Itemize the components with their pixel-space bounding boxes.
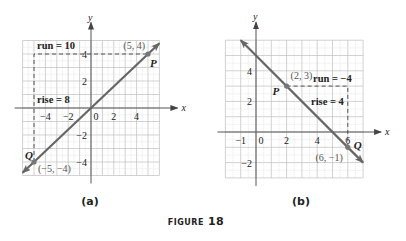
x-tick-label: 2 [284, 135, 289, 146]
figure-caption-number: 18 [208, 215, 224, 228]
y-tick-label: 4 [82, 49, 87, 60]
figure-canvas: xy−4−202442−2−4run = 10rise = 8(5, 4)PQ(… [0, 0, 406, 241]
point-P-name: P [150, 57, 157, 69]
x-tick-label: 4 [134, 111, 139, 122]
y-axis-label: y [87, 12, 93, 23]
x-axis-label: x [180, 102, 186, 113]
point-Q-name: Q [354, 139, 362, 151]
point-P-name: P [273, 85, 280, 97]
point-P [145, 51, 150, 56]
y-axis-label: y [252, 11, 258, 22]
graph-panel-a: xy−4−202442−2−4run = 10rise = 8(5, 4)PQ(… [15, 12, 187, 184]
x-tick-label: 0 [259, 135, 264, 146]
point-Q-coord: (6, −1) [315, 152, 342, 164]
figure-caption-word: FIGURE [168, 218, 204, 227]
y-tick-label: −2 [76, 130, 87, 141]
x-tick-label: −2 [63, 111, 74, 122]
y-tick-label: 4 [247, 66, 252, 77]
graph-panel-b: xy−1024642−2run = −4rise = 4(2, 3)PQ(6, … [217, 11, 390, 186]
x-tick-label: −4 [40, 111, 51, 122]
point-Q [345, 145, 350, 150]
y-tick-label: −2 [241, 158, 252, 169]
x-tick-label: 4 [315, 135, 320, 146]
x-axis-label: x [384, 126, 390, 137]
x-tick-label: 0 [94, 111, 99, 122]
rise-label: rise = 4 [311, 96, 345, 107]
x-tick-label: 2 [111, 111, 116, 122]
point-Q-name: Q [25, 149, 33, 161]
point-Q-coord: (−5, −4) [38, 163, 71, 175]
y-tick-label: 2 [82, 76, 87, 87]
panel-a-caption: (a) [81, 195, 98, 208]
run-label: run = 10 [37, 40, 75, 51]
run-label: run = −4 [313, 73, 353, 84]
panel-b-caption: (b) [292, 195, 310, 208]
figure-caption: FIGURE 18 [168, 215, 224, 228]
x-tick-label: −1 [235, 135, 246, 146]
point-P-coord: (2, 3) [291, 70, 313, 82]
y-tick-label: 2 [247, 96, 252, 107]
rise-label: rise = 8 [37, 94, 70, 105]
point-P [284, 84, 289, 89]
point-P-coord: (5, 4) [123, 40, 145, 52]
y-tick-label: −4 [76, 157, 87, 168]
